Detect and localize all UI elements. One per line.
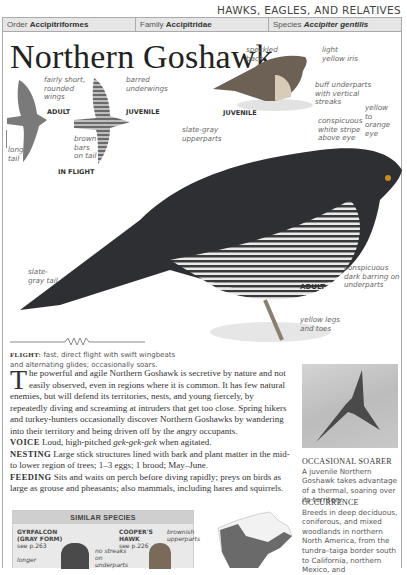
coopers-note: brownish upperparts: [167, 528, 197, 542]
voice-paragraph: VOICE Loud, high-pitched gek-gek-gek whe…: [10, 437, 290, 449]
similar-species-header: SIMILAR SPECIES: [13, 511, 193, 524]
tag-perched-juvenile: JUVENILE: [223, 109, 257, 117]
gyrfalcon-note: longer: [17, 556, 36, 563]
tag-adult: ADULT: [300, 283, 325, 291]
adult-perched-illustration: [20, 140, 405, 345]
gyrfalcon-entry: GYRFALCON (GRAY FORM)see p.263: [17, 528, 67, 549]
feeding-paragraph: FEEDING Sits and waits on perch before d…: [10, 472, 290, 495]
soaring-bird-icon: [302, 364, 398, 448]
species-description: The powerful and agile Northern Goshawk …: [10, 368, 290, 495]
soaring-goshawk-photo: [302, 364, 398, 448]
label-speckled-back: speckled back: [246, 46, 276, 63]
tag-flight-juvenile: JUVENILE: [126, 108, 160, 116]
leader-line: [6, 130, 7, 148]
occurrence-section: OCCURRENCE Breeds in deep deciduous, con…: [302, 498, 402, 575]
tag-flight-adult: ADULT: [47, 108, 70, 116]
label-slate-gray-tail: slate-gray tail: [28, 268, 63, 285]
label-yellow-legs: yellow legs and toes: [300, 316, 340, 333]
taxonomy-species: Species Accipiter gentilis: [269, 18, 401, 31]
similar-species-box: SIMILAR SPECIES GYRFALCON (GRAY FORM)see…: [12, 510, 194, 568]
nesting-paragraph: NESTING Large stick structures lined wit…: [10, 449, 290, 472]
taxonomy-order: Order Accipitriformes: [3, 18, 136, 31]
gyrfalcon-image: [61, 543, 89, 569]
label-white-stripe: conspicuous white stripe above eye: [318, 117, 363, 143]
coopers-hawk-image: [149, 543, 171, 569]
intro-paragraph: The powerful and agile Northern Goshawk …: [10, 368, 290, 437]
no-streaks-note: no streaks on underparts: [95, 547, 135, 568]
taxonomy-bar: Order Accipitriformes Family Accipitrida…: [2, 17, 402, 32]
taxonomy-family: Family Accipitridae: [136, 18, 269, 31]
section-heading: HAWKS, EAGLES, AND RELATIVES: [217, 4, 401, 16]
range-map: [208, 506, 294, 568]
label-yellow-orange-eye: yellow to orange eye: [365, 104, 395, 138]
flight-pattern-icon: [10, 336, 145, 346]
label-dark-barring: conspicuous dark barring on underparts: [344, 264, 404, 290]
label-light-yellow-iris: light yellow iris: [322, 46, 362, 63]
label-barred-underwings: barred underwings: [126, 76, 171, 93]
